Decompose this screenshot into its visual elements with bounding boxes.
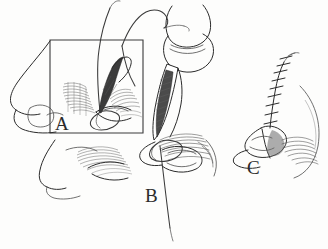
panel-label-a: A	[55, 114, 69, 133]
illustration-canvas	[0, 0, 328, 249]
panel-label-c: C	[247, 158, 260, 177]
surgical-illustration: A B C	[0, 0, 328, 249]
panel-label-b: B	[145, 186, 158, 205]
